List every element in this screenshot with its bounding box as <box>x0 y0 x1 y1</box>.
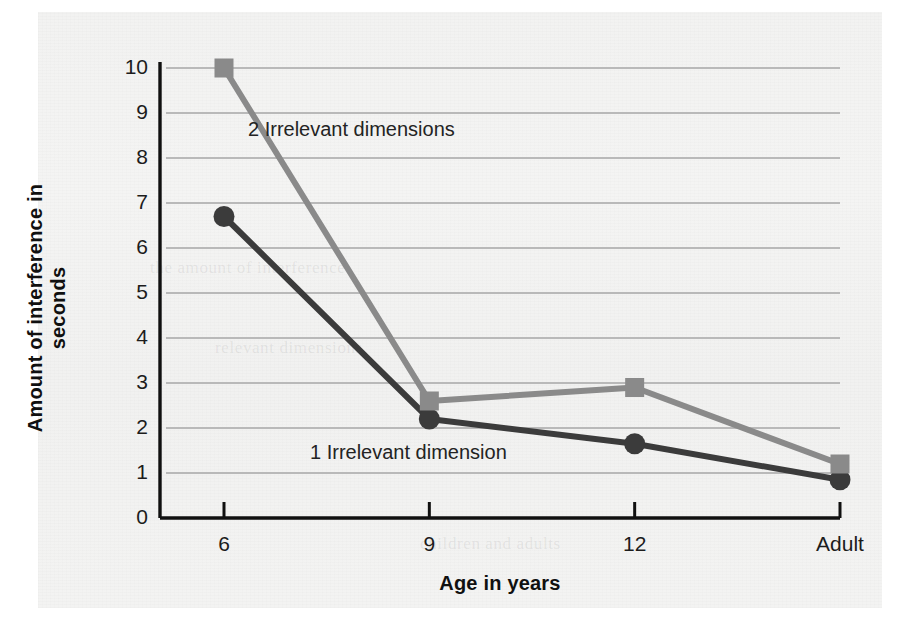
series-annotation-one-irrelevant: 1 Irrelevant dimension <box>310 441 507 464</box>
y-tick-label-4: 4 <box>108 325 148 349</box>
y-tick-label-5: 5 <box>108 280 148 304</box>
x-tick-label-12: 12 <box>585 532 685 556</box>
x-tick-label-9: 9 <box>379 532 479 556</box>
y-tick-label-7: 7 <box>108 190 148 214</box>
y-tick-label-3: 3 <box>108 370 148 394</box>
y-tick-label-9: 9 <box>108 100 148 124</box>
data-point-marker <box>214 206 235 227</box>
data-point-marker <box>624 433 645 454</box>
data-point-marker <box>420 392 439 411</box>
data-point-marker <box>215 59 234 78</box>
y-tick-label-6: 6 <box>108 235 148 259</box>
y-axis-title: Amount of interference in seconds <box>24 143 70 473</box>
y-tick-label-10: 10 <box>108 55 148 79</box>
x-tick-label-Adult: Adult <box>790 532 890 556</box>
data-point-marker <box>831 455 850 474</box>
y-tick-label-0: 0 <box>108 505 148 529</box>
data-point-marker <box>419 409 440 430</box>
x-axis-title: Age in years <box>160 572 840 595</box>
chart-page: the amount of interference relevant dime… <box>0 0 906 626</box>
x-tick-label-6: 6 <box>174 532 274 556</box>
y-tick-label-1: 1 <box>108 460 148 484</box>
y-tick-label-2: 2 <box>108 415 148 439</box>
data-point-marker <box>625 378 644 397</box>
series-annotation-two-irrelevant: 2 Irrelevant dimensions <box>248 118 455 141</box>
y-tick-label-8: 8 <box>108 145 148 169</box>
